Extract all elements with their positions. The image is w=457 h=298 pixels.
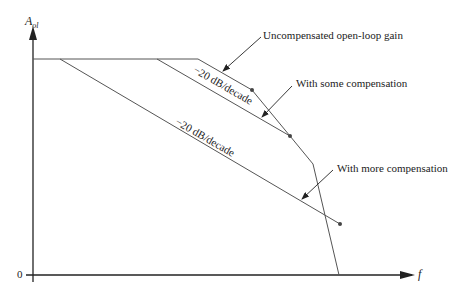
uncompensated-gain-line: [33, 59, 339, 275]
x-axis-arrow-icon: [400, 271, 415, 279]
more-leader-arrow: [302, 170, 333, 199]
uncompensated-label: Uncompensated open-loop gain: [263, 30, 403, 41]
y-axis-label: Aol: [25, 15, 39, 30]
pole-dot: [250, 88, 254, 92]
zero-label: 0: [17, 269, 23, 280]
uncomp-leader-arrow: [223, 37, 261, 71]
some-compensation-label: With some compensation: [296, 78, 407, 89]
pole-dot: [338, 222, 342, 226]
some-leader-arrow: [262, 86, 292, 117]
more-compensation-label: With more compensation: [337, 163, 448, 174]
x-axis-label: f: [418, 268, 421, 280]
y-axis-subscript: ol: [32, 21, 38, 30]
pole-dot: [288, 134, 292, 138]
